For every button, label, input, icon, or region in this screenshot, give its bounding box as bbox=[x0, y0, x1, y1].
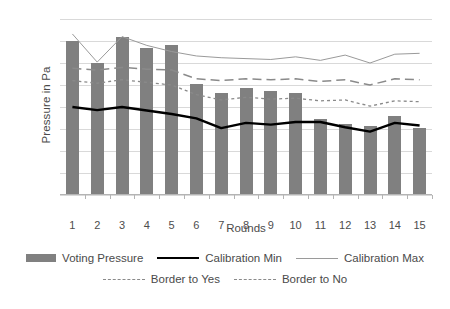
legend-marker-icon bbox=[234, 279, 276, 280]
legend-marker-icon bbox=[157, 257, 199, 259]
legend-label: Calibration Max bbox=[344, 252, 424, 264]
legend-marker-icon bbox=[296, 258, 338, 259]
x-tick-mark bbox=[184, 195, 185, 199]
legend-item[interactable]: Border to Yes bbox=[103, 273, 220, 285]
x-axis-line bbox=[60, 194, 432, 195]
line-series bbox=[72, 34, 419, 63]
x-tick-mark bbox=[333, 195, 334, 199]
legend-label: Border to No bbox=[282, 273, 347, 285]
x-tick-mark bbox=[283, 195, 284, 199]
legend-item[interactable]: Calibration Max bbox=[296, 252, 424, 264]
y-axis-title: Pressure in Pa bbox=[40, 10, 60, 200]
x-axis-title: Rounds bbox=[60, 222, 432, 234]
line-series bbox=[72, 80, 419, 106]
x-tick-mark bbox=[308, 195, 309, 199]
x-tick-mark bbox=[432, 195, 433, 199]
chart-legend: Voting PressureCalibration MinCalibratio… bbox=[0, 252, 450, 294]
legend-item[interactable]: Calibration Min bbox=[157, 252, 282, 264]
x-tick-mark bbox=[358, 195, 359, 199]
x-tick-mark bbox=[159, 195, 160, 199]
line-series-layer bbox=[60, 19, 432, 195]
legend-row: Voting PressureCalibration MinCalibratio… bbox=[0, 252, 450, 264]
legend-item[interactable]: Border to No bbox=[234, 273, 347, 285]
x-tick-mark bbox=[110, 195, 111, 199]
legend-marker-icon bbox=[26, 254, 56, 262]
x-tick-mark bbox=[382, 195, 383, 199]
legend-label: Calibration Min bbox=[205, 252, 282, 264]
x-tick-mark bbox=[85, 195, 86, 199]
x-tick-mark bbox=[407, 195, 408, 199]
chart-container: Pressure in Pa 9485094845948409483594830… bbox=[0, 0, 450, 309]
x-tick-mark bbox=[209, 195, 210, 199]
line-series bbox=[72, 67, 419, 85]
x-tick-mark bbox=[134, 195, 135, 199]
gridline bbox=[60, 195, 432, 196]
legend-marker-icon bbox=[103, 279, 145, 280]
plot-area: 9485094845948409483594830948259482094815… bbox=[60, 19, 432, 195]
legend-label: Border to Yes bbox=[151, 273, 220, 285]
line-series bbox=[72, 107, 419, 132]
legend-row: Border to YesBorder to No bbox=[0, 273, 450, 285]
x-tick-mark bbox=[258, 195, 259, 199]
legend-item[interactable]: Voting Pressure bbox=[26, 252, 143, 264]
legend-label: Voting Pressure bbox=[62, 252, 143, 264]
x-tick-mark bbox=[234, 195, 235, 199]
